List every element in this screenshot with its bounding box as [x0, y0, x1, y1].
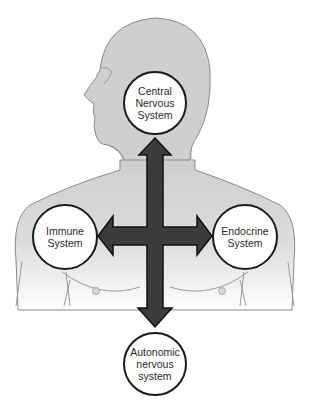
central-nervous-system-node: Central Nervous System	[123, 71, 187, 135]
nipple-right	[219, 288, 226, 295]
node-label-line: system	[138, 370, 171, 382]
immune-system-node: Immune System	[32, 204, 98, 270]
diagram-canvas: Central Nervous System Immune System End…	[0, 0, 310, 406]
node-label-line: Immune	[46, 225, 84, 237]
node-label-line: Central	[138, 85, 172, 97]
nipple-left	[93, 288, 100, 295]
node-label-line: Autonomic	[130, 346, 180, 358]
autonomic-nervous-system-node: Autonomic nervous system	[123, 332, 187, 396]
node-label-line: System	[47, 237, 82, 249]
node-label-line: Nervous	[135, 97, 174, 109]
node-label-line: System	[137, 109, 172, 121]
endocrine-system-node: Endocrine System	[212, 204, 278, 270]
node-label-line: nervous	[136, 358, 173, 370]
node-label-line: Endocrine	[221, 225, 268, 237]
node-label-line: System	[227, 237, 262, 249]
